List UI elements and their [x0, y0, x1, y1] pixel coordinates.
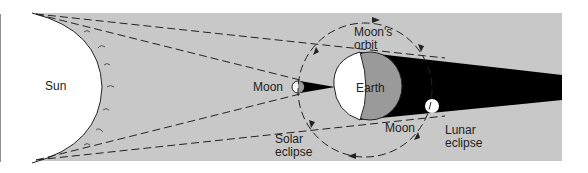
solar-eclipse-label-2: eclipse [275, 146, 312, 159]
orbit-label-2: orbit [354, 39, 377, 52]
earth-label: Earth [356, 82, 385, 95]
sun-label: Sun [45, 80, 66, 93]
moon-label-left: Moon [253, 81, 283, 94]
lunar-eclipse-label-2: eclipse [445, 137, 482, 150]
moon-lunar-eclipse [425, 99, 439, 113]
moon-label-bottom: Moon [385, 122, 415, 135]
